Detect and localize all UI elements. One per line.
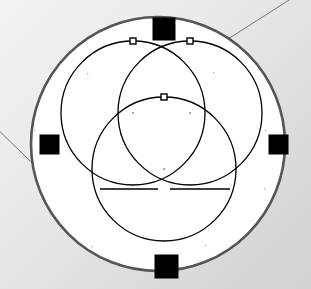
center-marker-lower <box>163 168 164 169</box>
speckle-dot <box>205 17 206 18</box>
handle-square-left[interactable] <box>40 135 59 154</box>
drawing-canvas[interactable] <box>0 0 311 289</box>
node-handle-lower[interactable] <box>161 94 167 100</box>
speckle-dot <box>265 70 266 71</box>
node-handle-upper-left[interactable] <box>130 38 136 44</box>
speckle-dot <box>87 73 88 74</box>
artwork-root <box>0 0 311 278</box>
handle-square-right[interactable] <box>269 135 288 154</box>
center-marker-upper-right <box>189 112 190 113</box>
speckle-dot <box>92 15 93 16</box>
speckle-dot <box>213 72 214 73</box>
speckle-dot <box>264 188 265 189</box>
center-marker-upper-left <box>132 112 133 113</box>
node-handle-upper-right[interactable] <box>187 38 193 44</box>
handle-square-top[interactable] <box>153 18 175 40</box>
speckle-dot <box>35 72 36 73</box>
speckle-dot <box>265 130 266 131</box>
speckle-dot <box>91 246 92 247</box>
handle-square-bottom[interactable] <box>155 255 178 278</box>
speckle-dot <box>36 190 37 191</box>
vector-artwork[interactable] <box>0 0 311 289</box>
speckle-dot <box>205 245 206 246</box>
speckle-dot <box>34 130 35 131</box>
